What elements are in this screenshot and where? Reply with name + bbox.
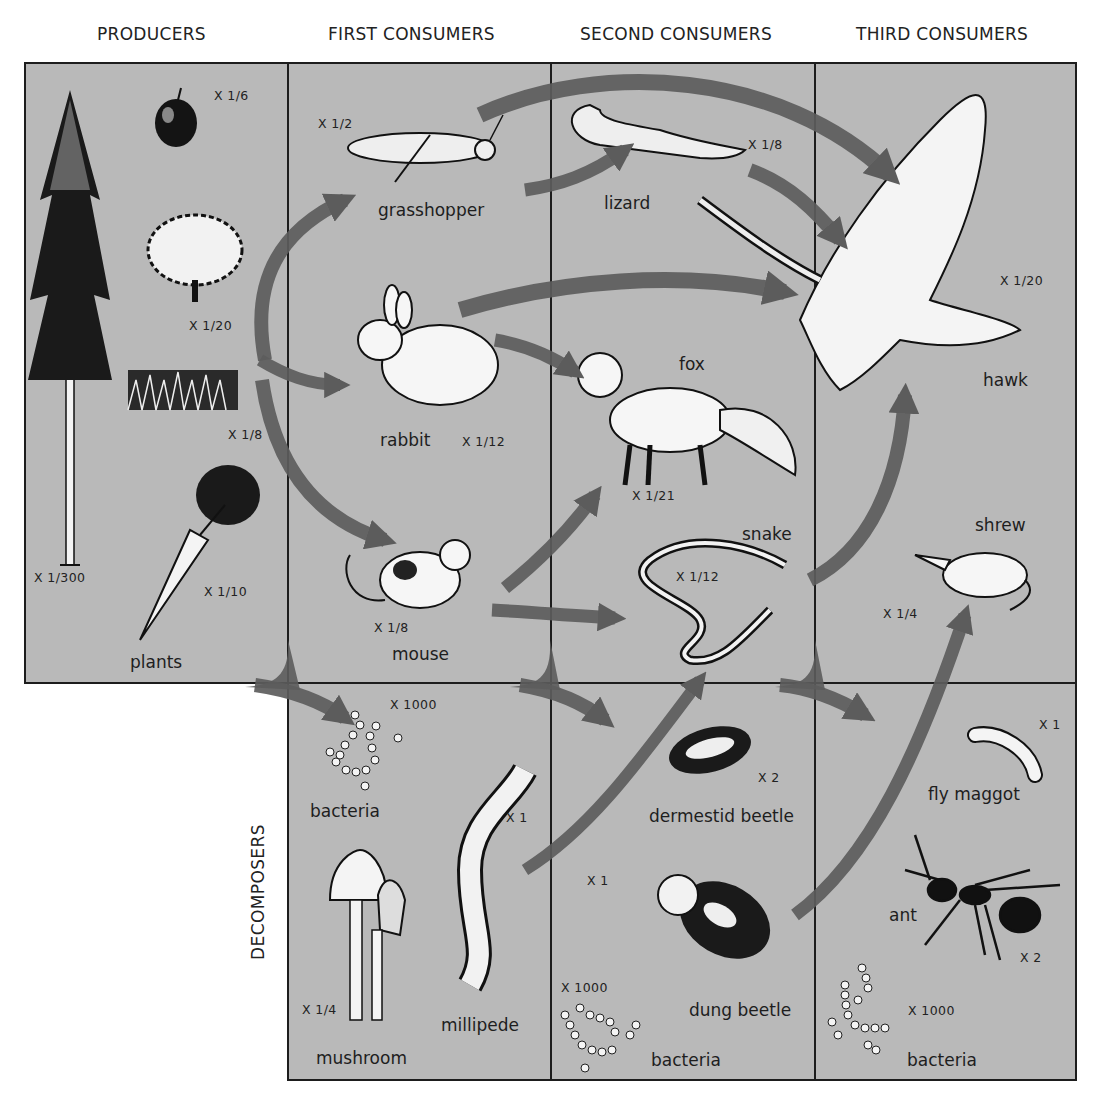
shrew-label: shrew — [975, 515, 1026, 535]
arrow-millipede-to-snake — [525, 680, 700, 870]
arrow-rabbit-to-fox — [495, 340, 575, 372]
dermestid-beetle-scale: X 2 — [758, 770, 780, 785]
arrow-lizard-to-hawk — [750, 170, 840, 240]
bacteria-scale: X 1000 — [908, 1003, 955, 1018]
apple-scale: X 1/6 — [214, 88, 249, 103]
mouse-label: mouse — [392, 644, 449, 664]
lizard-scale: X 1/8 — [748, 137, 783, 152]
dermestid-beetle-label: dermestid beetle — [649, 806, 794, 826]
dung-beetle-scale: X 1 — [587, 873, 609, 888]
grasshopper-label: grasshopper — [378, 200, 484, 220]
rabbit-scale: X 1/12 — [462, 434, 505, 449]
ant-scale: X 2 — [1020, 950, 1042, 965]
fly-maggot-scale: X 1 — [1039, 717, 1061, 732]
arrow-dung-beetle-to-shrew — [795, 615, 965, 915]
shrew-scale: X 1/4 — [883, 606, 918, 621]
arrow-grasshopper-to-lizard — [525, 150, 625, 190]
bacteria-label: bacteria — [310, 801, 380, 821]
fly-maggot-label: fly maggot — [928, 784, 1020, 804]
arrow-mouse-to-snake — [492, 610, 615, 618]
rabbit-label: rabbit — [380, 430, 430, 450]
arrow-grasshopper-to-hawk — [480, 82, 890, 175]
arrow-producers-to-decomposers — [255, 685, 345, 718]
arrow-rabbit-to-hawk — [460, 280, 785, 310]
ant-label: ant — [889, 905, 917, 925]
hawk-scale: X 1/20 — [1000, 273, 1043, 288]
bacteria-scale: X 1000 — [561, 980, 608, 995]
plants-label: plants — [130, 652, 182, 672]
arrow-first-to-decomposers — [520, 685, 605, 720]
tree-scale: X 1/300 — [34, 570, 85, 585]
arrow-plants-to-mouse — [262, 380, 385, 540]
arrow-snake-to-hawk — [810, 395, 905, 580]
bacteria-scale: X 1000 — [390, 697, 437, 712]
energy-flow-arrows — [0, 0, 1095, 1102]
fox-label: fox — [679, 354, 705, 374]
millipede-label: millipede — [441, 1015, 519, 1035]
mushroom-label: mushroom — [316, 1048, 407, 1068]
arrow-mouse-to-fox — [505, 495, 595, 588]
arrow-plants-to-grasshopper — [261, 200, 345, 360]
shrub-scale: X 1/20 — [189, 318, 232, 333]
fox-scale: X 1/21 — [632, 488, 675, 503]
lizard-label: lizard — [604, 193, 650, 213]
grass-scale: X 1/8 — [228, 427, 263, 442]
hawk-label: hawk — [983, 370, 1028, 390]
arrow-wedge — [245, 640, 300, 690]
snake-label: snake — [742, 524, 792, 544]
arrow-wedge — [510, 640, 560, 690]
bacteria-label: bacteria — [907, 1050, 977, 1070]
mouse-scale: X 1/8 — [374, 620, 409, 635]
carrot-scale: X 1/10 — [204, 584, 247, 599]
arrow-plants-to-rabbit — [260, 360, 340, 385]
bacteria-label: bacteria — [651, 1050, 721, 1070]
grasshopper-scale: X 1/2 — [318, 116, 353, 131]
millipede-scale: X 1 — [506, 810, 528, 825]
snake-scale: X 1/12 — [676, 569, 719, 584]
dung-beetle-label: dung beetle — [689, 1000, 791, 1020]
mushroom-scale: X 1/4 — [302, 1002, 337, 1017]
